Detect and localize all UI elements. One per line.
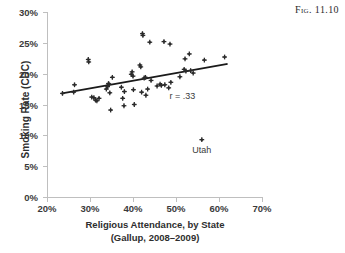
scatter-point	[60, 91, 65, 96]
scatter-point	[143, 75, 148, 80]
y-tick-mark	[43, 43, 47, 44]
x-tick-label: 40%	[111, 203, 155, 214]
scatter-point	[131, 87, 136, 92]
y-tick-mark	[43, 12, 47, 13]
correlation-annotation: r = .33	[170, 91, 196, 101]
scatter-point	[155, 84, 160, 89]
scatter-point	[183, 56, 188, 61]
scatter-point	[132, 102, 137, 107]
scatter-point	[120, 96, 125, 101]
x-tick-mark	[47, 198, 48, 202]
x-tick-label: 60%	[197, 203, 241, 214]
y-axis-line	[47, 12, 48, 198]
scatter-point	[166, 85, 171, 90]
scatter-point	[177, 74, 182, 79]
x-tick-label: 20%	[25, 203, 69, 214]
y-tick-label: 0%	[0, 192, 38, 203]
x-tick-mark	[262, 198, 263, 202]
trend-line	[62, 64, 228, 94]
scatter-point	[139, 90, 144, 95]
scatter-svg	[0, 0, 345, 253]
scatter-point	[104, 87, 109, 92]
scatter-point	[94, 98, 99, 103]
scatter-point	[107, 90, 112, 95]
scatter-point	[149, 78, 154, 83]
x-tick-label: 50%	[154, 203, 198, 214]
y-tick-mark	[43, 74, 47, 75]
y-tick-mark	[43, 166, 47, 167]
scatter-point	[108, 108, 113, 113]
scatter-point	[105, 84, 110, 89]
scatter-point	[110, 75, 115, 80]
y-tick-label: 5%	[0, 161, 38, 172]
x-tick-label: 30%	[68, 203, 112, 214]
x-tick-mark	[176, 198, 177, 202]
scatter-point	[97, 96, 102, 101]
x-tick-mark	[90, 198, 91, 202]
scatter-point	[183, 69, 188, 74]
scatter-point	[106, 81, 111, 86]
scatter-point	[138, 64, 143, 69]
scatter-point	[162, 39, 167, 44]
scatter-point	[89, 95, 94, 100]
scatter-point	[122, 103, 127, 108]
x-tick-mark	[133, 198, 134, 202]
scatter-point	[188, 68, 193, 73]
outlier-label-utah: Utah	[192, 145, 211, 155]
scatter-point	[202, 58, 207, 63]
scatter-point	[191, 71, 196, 76]
scatter-point	[147, 40, 152, 45]
x-axis-title: Religious Attendance, by State (Gallup, …	[47, 218, 263, 244]
x-tick-label: 70%	[240, 203, 284, 214]
scatter-point	[130, 69, 135, 74]
scatter-point	[91, 95, 96, 100]
scatter-point	[119, 85, 124, 90]
plot-data-layer	[0, 0, 345, 253]
scatter-point	[187, 52, 192, 57]
scatter-point	[162, 82, 167, 87]
scatter-point	[86, 57, 91, 62]
scatter-point	[140, 31, 145, 36]
scatter-point	[145, 87, 150, 92]
x-axis-title-line2: (Gallup, 2008–2009)	[47, 231, 263, 244]
scatter-point	[137, 63, 142, 68]
y-tick-label: 10%	[0, 130, 38, 141]
scatter-point	[159, 83, 164, 88]
y-tick-mark	[43, 135, 47, 136]
figure-scatter-plot: Fig. 11.10 Smoking Rate (CDC) Religious …	[0, 0, 345, 253]
scatter-point	[72, 82, 77, 87]
scatter-point	[71, 90, 76, 95]
x-axis-title-line1: Religious Attendance, by State	[47, 218, 263, 231]
scatter-point	[86, 60, 91, 65]
scatter-point	[107, 82, 112, 87]
scatter-point	[140, 33, 145, 38]
y-tick-label: 30%	[0, 7, 38, 18]
y-tick-mark	[43, 105, 47, 106]
x-tick-mark	[219, 198, 220, 202]
scatter-point	[93, 98, 98, 103]
scatter-point	[142, 76, 147, 81]
y-tick-label: 15%	[0, 99, 38, 110]
scatter-point	[131, 74, 136, 79]
figure-caption: Fig. 11.10	[295, 4, 339, 15]
scatter-point	[122, 89, 127, 94]
scatter-point	[168, 42, 173, 47]
y-tick-label: 20%	[0, 68, 38, 79]
x-axis-line	[47, 197, 263, 198]
y-tick-label: 25%	[0, 37, 38, 48]
scatter-point	[182, 67, 187, 72]
scatter-point	[144, 93, 149, 98]
scatter-point	[168, 80, 173, 85]
scatter-point	[199, 137, 204, 142]
scatter-point	[129, 72, 134, 77]
scatter-point	[158, 82, 163, 87]
scatter-point	[222, 55, 227, 60]
